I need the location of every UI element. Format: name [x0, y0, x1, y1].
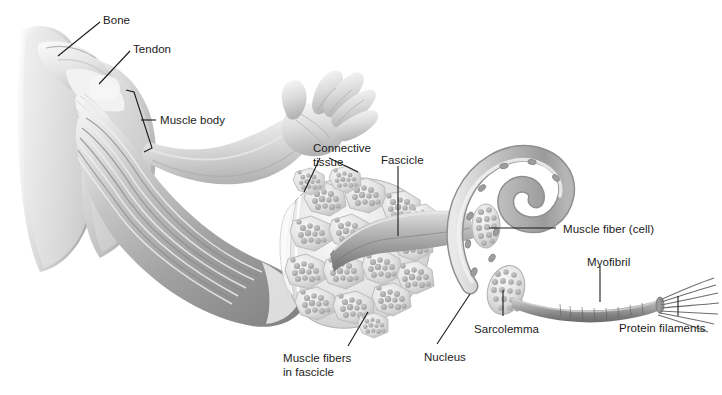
label-bone: Bone	[103, 14, 130, 28]
skeletal-muscle-figure: Skeletal Muscle A	[0, 0, 722, 395]
label-muscle-body: Muscle body	[160, 114, 225, 128]
label-sarcolemma: Sarcolemma	[474, 323, 539, 337]
label-nucleus: Nucleus	[424, 351, 466, 365]
label-protein-filaments: Protein filaments	[619, 322, 706, 336]
label-myofibril: Myofibril	[587, 256, 630, 270]
label-connective-tissue: Connective tissue	[313, 142, 371, 169]
anatomy-illustration	[0, 0, 722, 395]
label-muscle-fibers-in-fascicle: Muscle fibers in fascicle	[283, 352, 351, 379]
label-fascicle: Fascicle	[381, 154, 424, 168]
label-tendon: Tendon	[133, 43, 171, 57]
label-muscle-fiber-cell: Muscle fiber (cell)	[563, 223, 654, 237]
